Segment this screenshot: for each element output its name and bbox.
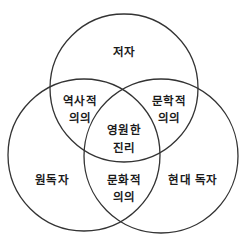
label-cultural-significance-line2: 의의 — [113, 192, 135, 204]
label-modern-reader: 현대 독자 — [168, 175, 217, 187]
label-original-reader: 원독자 — [35, 175, 69, 187]
label-historical-significance-line1: 역사적 — [63, 96, 97, 108]
label-author: 저자 — [113, 47, 135, 59]
label-cultural-significance-line1: 문화적 — [107, 175, 141, 187]
label-eternal-truth-line2: 진리 — [113, 143, 135, 155]
label-literary-significance-line2: 의의 — [158, 113, 180, 125]
label-eternal-truth-line1: 영원한 — [107, 125, 141, 137]
label-historical-significance-line2: 의의 — [69, 113, 91, 125]
label-literary-significance-line1: 문학적 — [152, 96, 186, 108]
